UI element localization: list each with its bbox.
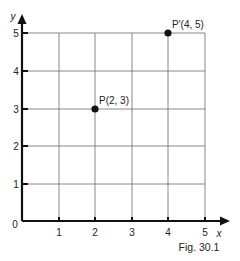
y-tick-1: 1: [13, 179, 19, 190]
coordinate-plane: 1 2 3 4 5 1 2 3 4 5 0 y x P(2, 3) P'(4, …: [0, 0, 240, 261]
point-p-prime-label: P'(4, 5): [172, 19, 204, 30]
y-tick-5: 5: [13, 28, 19, 39]
figure-caption: Fig. 30.1: [179, 241, 220, 253]
x-tick-2: 2: [92, 227, 98, 238]
point-p-label: P(2, 3): [99, 95, 129, 106]
grid-lines: [22, 33, 205, 221]
x-tick-3: 3: [129, 227, 135, 238]
axes: [18, 14, 231, 226]
x-tick-1: 1: [56, 227, 62, 238]
ticks: [22, 33, 205, 221]
x-tick-5: 5: [202, 227, 208, 238]
x-tick-4: 4: [165, 227, 171, 238]
point-p-prime: [164, 29, 171, 36]
x-axis-arrow-icon: [220, 217, 230, 226]
y-axis-label: y: [10, 11, 17, 22]
y-tick-4: 4: [13, 66, 19, 77]
y-tick-2: 2: [13, 141, 19, 152]
y-axis-arrow-icon: [18, 14, 27, 24]
x-tick-labels: 1 2 3 4 5: [56, 227, 208, 238]
origin-label: 0: [12, 219, 18, 230]
y-tick-3: 3: [13, 104, 19, 115]
x-axis-label: x: [216, 228, 223, 239]
point-p: [91, 105, 98, 112]
y-tick-labels: 1 2 3 4 5: [13, 28, 19, 190]
